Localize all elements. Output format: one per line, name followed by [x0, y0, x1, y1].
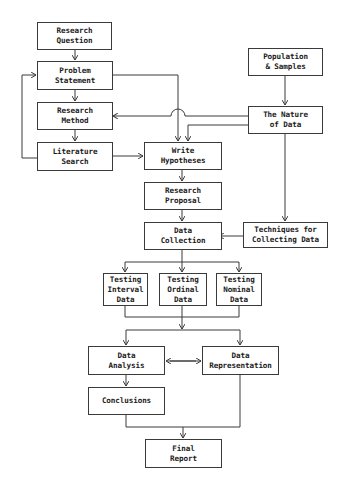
node-label: Conclusions: [102, 396, 151, 406]
node-label: Final Report: [170, 444, 197, 464]
node-research-proposal: Research Proposal: [144, 182, 222, 210]
node-label: Research Question: [57, 26, 93, 46]
node-testing-ordinal-data: Testing Ordinal Data: [159, 273, 207, 306]
node-label: Techniques for Collecting Data: [252, 225, 319, 245]
edge-nature-to-hypotheses: [188, 125, 248, 141]
node-testing-interval-data: Testing Interval Data: [103, 273, 148, 306]
node-nature-of-data: The Nature of Data: [248, 106, 323, 134]
node-research-method: Research Method: [37, 102, 113, 130]
node-write-hypotheses: Write Hypotheses: [144, 142, 222, 170]
node-data-collection: Data Collection: [144, 222, 222, 250]
node-label: Research Method: [57, 106, 93, 126]
node-testing-nominal-data: Testing Nominal Data: [216, 273, 262, 306]
node-final-report: Final Report: [145, 439, 222, 468]
node-literature-search: Literature Search: [37, 142, 113, 171]
node-data-analysis: Data Analysis: [88, 346, 165, 375]
node-label: Data Collection: [161, 226, 206, 246]
node-label: Research Proposal: [165, 186, 201, 206]
flowchart-canvas: Research Question Problem Statement Rese…: [0, 0, 347, 489]
node-problem-statement: Problem Statement: [37, 61, 113, 90]
node-label: The Nature of Data: [263, 110, 308, 130]
edge-nature-to-method: [113, 109, 248, 116]
node-label: Testing Nominal Data: [223, 275, 254, 305]
edge-literature-to-problem: [22, 75, 37, 158]
node-data-representation: Data Representation: [202, 346, 279, 375]
node-label: Testing Ordinal Data: [167, 275, 198, 305]
node-label: Problem Statement: [55, 66, 95, 86]
node-label: Data Analysis: [109, 351, 145, 371]
edge-problem-to-hypotheses: [112, 75, 178, 141]
node-label: Literature Search: [53, 147, 98, 167]
node-label: Testing Interval Data: [108, 275, 144, 305]
node-conclusions: Conclusions: [88, 387, 165, 415]
node-label: Write Hypotheses: [161, 146, 206, 166]
node-label: Population & Samples: [263, 52, 308, 72]
node-label: Data Representation: [209, 351, 272, 371]
node-research-question: Research Question: [37, 22, 112, 50]
node-techniques-collecting-data: Techniques for Collecting Data: [243, 222, 328, 248]
node-population-samples: Population & Samples: [248, 48, 323, 76]
